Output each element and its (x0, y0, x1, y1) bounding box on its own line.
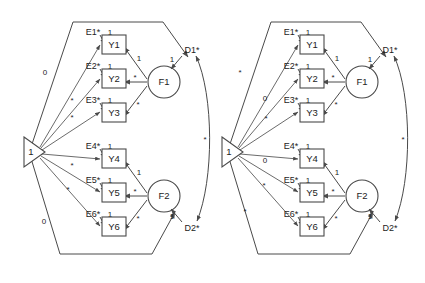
loading-label-Y5: * (331, 187, 334, 196)
disturbance-label-D1: D1* (184, 45, 200, 55)
constant-label: 1 (28, 146, 33, 157)
loading-label-Y4: 1 (137, 168, 142, 177)
mean-label-Y5: * (262, 181, 265, 190)
factor-label-F1: F1 (356, 76, 367, 87)
diagram-canvas: 1 0 * * * * 0 1 * * 1 * * E1* E2* E3* E4… (0, 0, 425, 283)
mean-label-Y3: * (264, 114, 267, 123)
loading-label-Y2: * (133, 73, 136, 82)
mean-label-Y1: 0 (43, 68, 48, 77)
mean-label-Y1: * (238, 68, 241, 77)
mean-label-Y6: 0 (42, 217, 47, 226)
constant-label: 1 (226, 146, 231, 157)
factor-label-F2: F2 (158, 190, 169, 201)
indicator-label-Y3: Y3 (306, 107, 318, 118)
indicator-label-Y5: Y5 (108, 187, 120, 198)
error-label-E3: E3* (284, 95, 299, 105)
mean-path-to-Y5 (239, 156, 298, 192)
mean-label-Y3: * (70, 113, 73, 122)
mean-label-Y4: * (70, 161, 73, 170)
factor-label-F2: F2 (356, 190, 367, 201)
loading-label-Y1: 1 (137, 54, 142, 63)
mean-label-Y5: * (66, 185, 69, 194)
indicator-label-Y6: Y6 (108, 221, 120, 232)
error-label-E5: E5* (86, 175, 101, 185)
factor-label-F1: F1 (158, 76, 169, 87)
error-label-E4: E4* (284, 141, 299, 151)
indicator-label-Y5: Y5 (306, 187, 318, 198)
indicator-label-Y4: Y4 (108, 153, 120, 164)
error-label-E2: E2* (284, 61, 299, 71)
disturbance-label-D2: D2* (184, 223, 200, 233)
disturbance-label-D2: D2* (382, 223, 398, 233)
indicator-label-Y2: Y2 (108, 73, 120, 84)
indicator-label-Y1: Y1 (306, 39, 318, 50)
error-label-E2: E2* (86, 61, 101, 71)
indicator-label-Y6: Y6 (306, 221, 318, 232)
loading-label-Y5: * (133, 187, 136, 196)
loading-label-Y6: * (334, 214, 337, 223)
mean-label-Y2: 0 (263, 94, 268, 103)
loading-label-Y3: * (136, 100, 139, 109)
constant-triangle (24, 137, 45, 167)
mean-path-to-Y4 (240, 154, 298, 159)
left-panel: 1 0 * * * * 0 1 * * 1 * * E1* E2* E3* E4… (24, 22, 210, 254)
disturbance-label-D1: D1* (382, 45, 398, 55)
sem-diagram-svg: 1 0 * * * * 0 1 * * 1 * * E1* E2* E3* E4… (0, 0, 425, 283)
loading-label-Y1: 1 (335, 54, 340, 63)
disturbance-path-label-D1: 1 (170, 55, 175, 64)
loading-label-Y2: * (331, 73, 334, 82)
constant-triangle (222, 137, 243, 167)
error-label-E6: E6* (284, 209, 299, 219)
indicator-label-Y4: Y4 (306, 153, 318, 164)
disturbance-path-label-D1: 1 (368, 55, 373, 64)
error-label-E4: E4* (86, 141, 101, 151)
indicator-label-Y2: Y2 (306, 73, 318, 84)
mean-path-to-Y4 (42, 154, 100, 159)
loading-label-Y6: * (136, 214, 139, 223)
indicator-label-Y3: Y3 (108, 107, 120, 118)
disturbance-path-label-D2: 1 (368, 212, 373, 221)
error-label-E6: E6* (86, 209, 101, 219)
error-label-E3: E3* (86, 95, 101, 105)
mean-label-Y6: * (243, 207, 246, 216)
mean-label-Y4: 0 (263, 156, 268, 165)
covariance-label: * (203, 135, 206, 144)
error-label-E5: E5* (284, 175, 299, 185)
mean-label-Y2: * (70, 96, 73, 105)
covariance-label: * (401, 135, 404, 144)
indicator-label-Y1: Y1 (108, 39, 120, 50)
error-label-E1: E1* (86, 27, 101, 37)
disturbance-path-label-D2: 1 (170, 212, 175, 221)
loading-label-Y3: * (334, 100, 337, 109)
error-label-E1: E1* (284, 27, 299, 37)
loading-label-Y4: 1 (335, 168, 340, 177)
right-panel: 1 * 0 * 0 * * 1 * * 1 * * E1* E2* E3* E4… (222, 22, 408, 254)
